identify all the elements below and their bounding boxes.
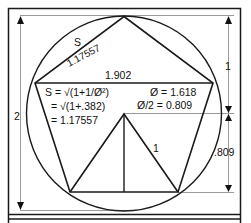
dimension-right-bottom-label: .809 <box>214 146 235 158</box>
dimension-left-label: 2 <box>14 110 20 122</box>
phi-label: Ø = 1.618 <box>150 86 197 98</box>
arrow-up-icon <box>225 16 232 24</box>
arrow-down-icon <box>17 202 24 210</box>
arrow-up-icon <box>225 114 232 121</box>
arrow-up-icon <box>17 16 24 24</box>
formula-line-1: S = √(1+1/Ø²) <box>45 86 109 98</box>
dimension-right-top-label: 1 <box>225 60 231 72</box>
triangle-side-label: 1 <box>153 142 159 154</box>
pentagon-diagram: S 1.17557 1.902 S = √(1+1/Ø²) = √(1+.382… <box>0 0 251 223</box>
formula-line-3: = 1.17557 <box>51 114 98 126</box>
diagonal-label: 1.902 <box>105 69 131 81</box>
arrow-down-icon <box>225 106 232 113</box>
side-letter-label: S <box>74 36 81 48</box>
formula-line-2: = √(1+.382) <box>51 100 105 112</box>
arrow-down-icon <box>225 185 232 192</box>
phi-half-label: Ø/2 = 0.809 <box>137 99 192 111</box>
